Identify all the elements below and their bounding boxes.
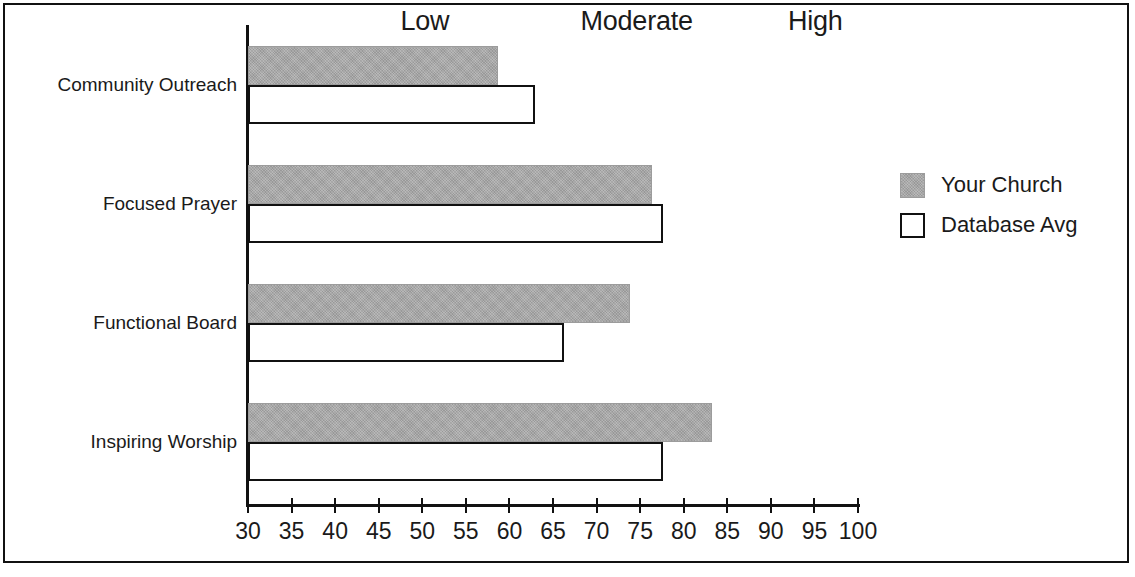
legend-swatch-outline-square — [900, 213, 925, 238]
x-axis-tick — [726, 498, 728, 513]
bar-database-avg — [248, 204, 663, 243]
bar-database-avg — [248, 323, 564, 362]
category-label-community-outreach: Community Outreach — [57, 74, 237, 96]
x-axis-tick — [639, 498, 641, 513]
chart-legend: Your Church Database Avg — [900, 165, 1078, 245]
chart-screenshot: LowModerateHigh Community OutreachFocuse… — [0, 0, 1135, 577]
bar-database-avg — [248, 85, 535, 124]
bar-your-church — [248, 403, 712, 442]
x-axis-tick — [465, 498, 467, 513]
zone-label-low: Low — [400, 6, 449, 37]
x-axis-tick-label: 40 — [322, 518, 348, 545]
bar-your-church — [248, 46, 498, 85]
x-axis-tick — [552, 498, 554, 513]
x-axis-tick-label: 45 — [366, 518, 392, 545]
x-axis-tick — [770, 498, 772, 513]
x-axis-tick-label: 35 — [279, 518, 305, 545]
plot-area: LowModerateHigh Community OutreachFocuse… — [0, 0, 1135, 577]
x-axis-tick-label: 60 — [497, 518, 523, 545]
x-axis-tick — [421, 498, 423, 513]
x-axis-tick — [683, 498, 685, 513]
legend-label: Database Avg — [941, 212, 1078, 238]
x-axis-tick-label: 80 — [671, 518, 697, 545]
bar-your-church — [248, 284, 630, 323]
x-axis-tick — [334, 498, 336, 513]
legend-label: Your Church — [941, 172, 1062, 198]
legend-swatch-filled-square — [900, 173, 925, 198]
x-axis-tick — [508, 498, 510, 513]
category-label-inspiring-worship: Inspiring Worship — [91, 431, 237, 453]
x-axis-tick-label: 90 — [758, 518, 784, 545]
bar-database-avg — [248, 442, 663, 481]
x-axis-tick — [378, 498, 380, 513]
legend-item-your-church: Your Church — [900, 165, 1078, 205]
x-axis-tick-label: 55 — [453, 518, 479, 545]
category-label-focused-prayer: Focused Prayer — [103, 193, 237, 215]
zone-label-moderate: Moderate — [580, 6, 692, 37]
x-axis-tick — [857, 498, 859, 513]
zone-label-high: High — [788, 6, 843, 37]
x-axis-tick-label: 85 — [714, 518, 740, 545]
x-axis-tick — [813, 498, 815, 513]
x-axis-tick — [247, 498, 249, 513]
category-label-functional-board: Functional Board — [93, 312, 237, 334]
x-axis-tick-label: 95 — [802, 518, 828, 545]
x-axis-tick-label: 30 — [235, 518, 261, 545]
x-axis-tick-label: 70 — [584, 518, 610, 545]
bar-your-church — [248, 165, 652, 204]
x-axis-tick — [596, 498, 598, 513]
legend-item-database-avg: Database Avg — [900, 205, 1078, 245]
x-axis-tick — [291, 498, 293, 513]
x-axis-tick-label: 75 — [627, 518, 653, 545]
x-axis-tick-label: 100 — [839, 518, 877, 545]
x-axis-tick-label: 50 — [409, 518, 435, 545]
x-axis-tick-label: 65 — [540, 518, 566, 545]
